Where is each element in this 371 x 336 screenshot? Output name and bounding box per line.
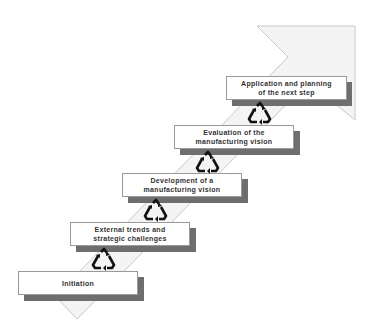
step-box: Initiation [18,271,138,295]
recycle-cycle-icon [195,150,221,174]
step-label-line1: Application and planning [241,79,332,88]
step-development: Development of a manufacturing vision [122,173,242,197]
step-box: Evaluation of the manufacturing vision [174,125,294,149]
step-label-line1: Development of a [144,176,221,185]
recycle-cycle-icon [91,247,117,271]
step-external-trends: External trends and strategic challenges [70,222,190,246]
step-label-line2: of the next step [241,88,332,97]
step-box: External trends and strategic challenges [70,222,190,246]
step-evaluation: Evaluation of the manufacturing vision [174,125,294,149]
step-application: Application and planning of the next ste… [226,76,347,100]
recycle-cycle-icon [143,198,169,222]
recycle-cycle-icon [247,101,273,125]
step-box: Development of a manufacturing vision [122,173,242,197]
step-label-line1: External trends and [93,225,166,234]
step-label-line1: Initiation [62,279,94,288]
step-initiation: Initiation [18,271,138,295]
step-label-line2: manufacturing vision [196,137,273,146]
step-box: Application and planning of the next ste… [226,76,347,100]
step-label-line2: manufacturing vision [144,185,221,194]
step-label-line1: Evaluation of the [196,128,273,137]
step-label-line2: strategic challenges [93,234,166,243]
